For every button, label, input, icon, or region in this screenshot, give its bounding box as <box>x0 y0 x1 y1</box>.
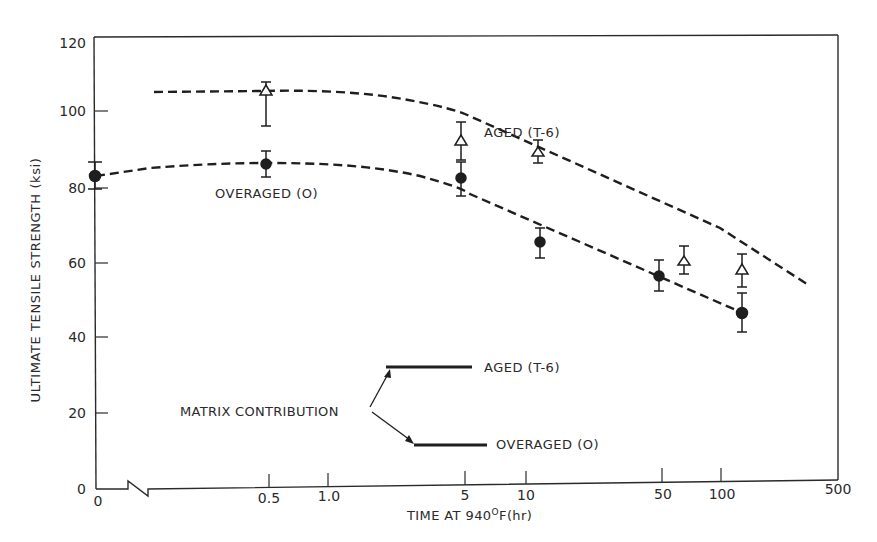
arrow-head-aged <box>384 369 391 378</box>
svg-text:5: 5 <box>461 487 470 503</box>
tensile-strength-chart: 120 100 80 60 40 20 0 0 0.5 1.0 5 10 50 … <box>0 0 877 542</box>
overaged-series <box>88 151 748 332</box>
aged-point <box>455 135 467 145</box>
svg-text:50: 50 <box>654 486 672 502</box>
y-axis-ticks <box>95 111 108 413</box>
plot-frame <box>94 35 838 496</box>
svg-text:10: 10 <box>517 487 535 503</box>
overaged-trend-line <box>96 163 745 314</box>
overaged-point <box>654 271 664 281</box>
svg-text:80: 80 <box>68 180 86 196</box>
overaged-point <box>261 159 271 169</box>
matrix-overaged-label: OVERAGED (O) <box>496 437 599 452</box>
arrow-to-overaged <box>372 412 410 440</box>
y-axis-label: ULTIMATE TENSILE STRENGTH (ksi) <box>28 158 43 403</box>
svg-text:0: 0 <box>77 481 86 497</box>
svg-text:500: 500 <box>825 481 852 497</box>
aged-curve-label: AGED (T-6) <box>484 125 560 140</box>
svg-text:0.5: 0.5 <box>258 490 280 506</box>
svg-text:1.0: 1.0 <box>318 488 340 504</box>
matrix-aged-label: AGED (T-6) <box>484 360 560 375</box>
aged-series <box>260 82 748 287</box>
overaged-curve-label: OVERAGED (O) <box>215 186 318 201</box>
overaged-point <box>737 308 748 319</box>
svg-text:0: 0 <box>94 493 103 509</box>
overaged-point <box>456 173 466 183</box>
aged-point <box>736 264 748 274</box>
svg-text:60: 60 <box>68 255 86 271</box>
svg-text:120: 120 <box>59 35 86 51</box>
overaged-point <box>535 237 545 247</box>
x-axis-label: TIME AT 940OF(hr) <box>406 507 532 523</box>
matrix-contribution <box>370 367 487 445</box>
svg-text:40: 40 <box>68 329 86 345</box>
overaged-point <box>90 171 101 182</box>
matrix-contribution-label: MATRIX CONTRIBUTION <box>180 404 339 419</box>
svg-text:100: 100 <box>709 486 736 502</box>
aged-point <box>678 256 690 265</box>
y-axis-tick-labels: 120 100 80 60 40 20 0 <box>59 35 86 497</box>
arrow-head-overaged <box>405 435 414 444</box>
svg-text:100: 100 <box>59 103 86 119</box>
svg-text:20: 20 <box>68 405 86 421</box>
arrow-to-aged <box>370 374 388 407</box>
